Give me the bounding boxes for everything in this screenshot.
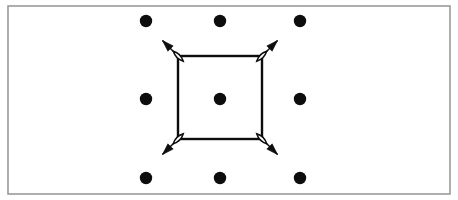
lattice-dot-top-center	[214, 15, 226, 27]
lattice-dot-top-right	[294, 15, 306, 27]
outer-frame-border	[8, 6, 450, 194]
lattice-dot-bottom-center	[214, 172, 226, 184]
lattice-dot-bottom-right	[294, 172, 306, 184]
lattice-dot-middle-right	[294, 93, 306, 105]
figure-root	[0, 0, 458, 200]
lattice-diagram	[0, 0, 458, 200]
lattice-dot-center	[214, 93, 226, 105]
lattice-dot-bottom-left	[140, 172, 152, 184]
lattice-dot-middle-left	[140, 93, 152, 105]
lattice-dot-top-left	[140, 15, 152, 27]
